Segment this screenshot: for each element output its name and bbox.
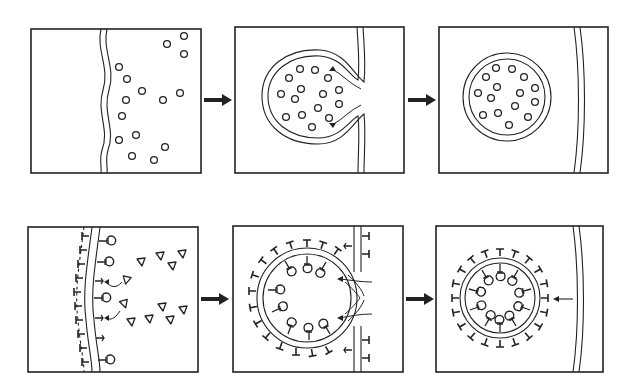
arrow-right-icon — [201, 293, 229, 305]
panel-top-1 — [31, 29, 201, 173]
panel-bottom-3 — [436, 226, 603, 372]
panel-top-2 — [235, 27, 404, 173]
arrow-right-icon — [204, 94, 232, 106]
arrow-right-icon — [406, 293, 434, 305]
panel-top-3 — [439, 27, 608, 173]
arrow-right-icon — [408, 94, 436, 106]
diagram-canvas — [0, 0, 636, 392]
panel-bottom-2 — [233, 226, 403, 372]
panel-bottom-1 — [28, 227, 198, 372]
